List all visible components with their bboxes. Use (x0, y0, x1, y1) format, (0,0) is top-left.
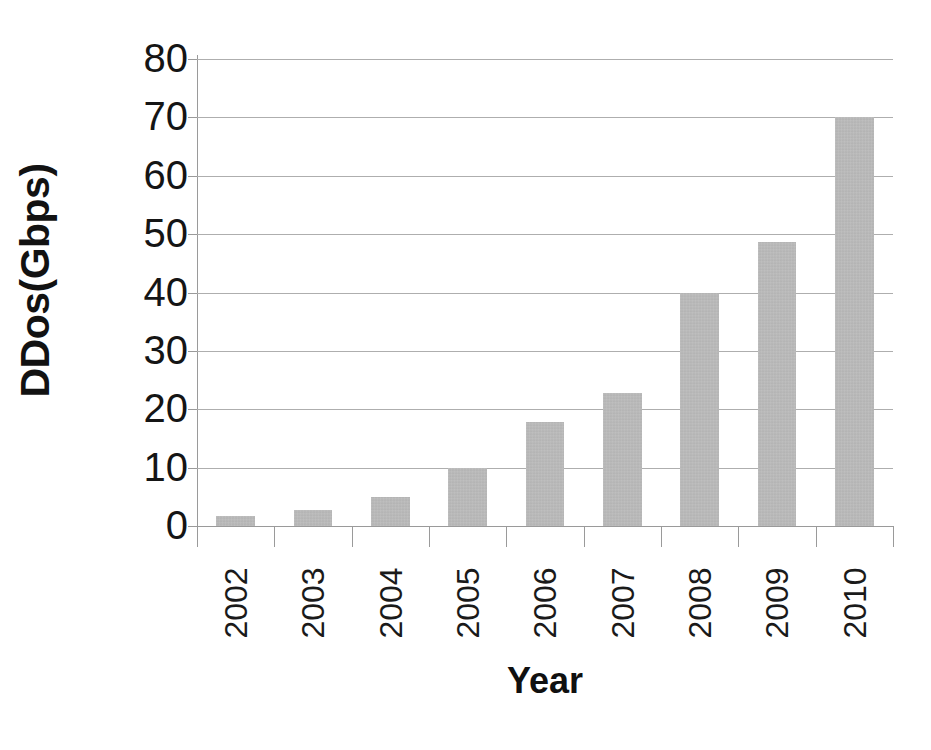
bar-2007 (603, 393, 642, 526)
x-axis-tick-mark (661, 526, 662, 547)
y-axis-tick-label: 70 (60, 96, 188, 136)
x-axis-tick-label: 2003 (296, 567, 330, 638)
bar-2008 (680, 293, 719, 527)
x-axis-tick-mark (429, 526, 430, 547)
x-axis-title: Year (197, 660, 893, 702)
bar-2005 (448, 468, 487, 526)
x-axis-tick-mark (584, 526, 585, 547)
x-axis-tick-mark (274, 526, 275, 547)
bar-2010 (835, 117, 874, 526)
x-axis-tick-label-wrap: 2010 (799, 548, 909, 658)
y-axis-tick-label: 60 (60, 155, 188, 195)
bar-2009 (758, 242, 797, 526)
x-axis-tick-label: 2005 (451, 567, 485, 638)
x-axis-tick-mark (816, 526, 817, 547)
y-axis-title-label: DDos(Gbps) (12, 163, 59, 397)
x-axis-tick-mark (738, 526, 739, 547)
x-axis-tick-label: 2004 (373, 567, 407, 638)
plot-area (197, 59, 893, 526)
bar-2006 (526, 422, 565, 526)
x-axis-tick-labels: 200220032004200520062007200820092010 (0, 548, 931, 668)
y-axis-tick-label: 30 (60, 330, 188, 370)
gridline (197, 117, 893, 118)
bar-2002 (216, 516, 255, 526)
x-axis-tick-mark (893, 526, 894, 547)
x-axis-tick-label: 2006 (528, 567, 562, 638)
x-axis-tick-mark (197, 526, 198, 547)
x-axis-tick-label: 2002 (219, 567, 253, 638)
x-axis-tick-label: 2007 (605, 567, 639, 638)
y-axis-tick-label: 80 (60, 38, 188, 78)
gridline (197, 234, 893, 235)
bar-2004 (371, 497, 410, 526)
bar-chart: DDos(Gbps) 80706050403020100 20022003200… (0, 0, 931, 750)
x-axis-tick-label: 2008 (683, 567, 717, 638)
gridline (197, 59, 893, 60)
x-axis-tick-label: 2009 (760, 567, 794, 638)
gridline (197, 176, 893, 177)
x-axis-tick-marks (0, 526, 931, 548)
y-axis-tick-label: 10 (60, 447, 188, 487)
y-axis-tick-label: 40 (60, 272, 188, 312)
y-axis-tick-label: 20 (60, 388, 188, 428)
bar-2003 (294, 510, 333, 526)
x-axis-tick-mark (506, 526, 507, 547)
x-axis-tick-label: 2010 (837, 567, 871, 638)
y-axis-tick-label: 50 (60, 213, 188, 253)
x-axis-tick-mark (352, 526, 353, 547)
